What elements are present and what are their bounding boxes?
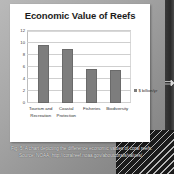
chart-title: Economic Value of Reefs [10, 10, 150, 21]
x-axis-category-label: Fisheries [80, 105, 104, 119]
x-axis-labels: Tourism and RecreationCoastal Protection… [27, 105, 131, 119]
chart-card: Economic Value of Reefs 024681012 Touris… [10, 4, 150, 142]
plot-area: 024681012 [27, 31, 131, 103]
caption-source-line: Source: NOAA, http://coralreef.noaa.gov/… [11, 152, 166, 159]
bar [38, 45, 49, 103]
y-axis-tick-label: 8 [23, 52, 25, 57]
chart-legend: $ billion/yr [134, 88, 157, 93]
bar-slot [85, 31, 97, 103]
y-axis-tick-label: 4 [23, 76, 25, 81]
figure-caption: Fig. 5: A chart depicting the difference… [11, 145, 166, 159]
bar [86, 69, 97, 103]
y-axis-tick-label: 2 [23, 88, 25, 93]
right-arrow-icon [165, 80, 174, 86]
bar-slot [37, 31, 49, 103]
y-axis-tick-label: 10 [20, 40, 25, 45]
slide-canvas: Economic Value of Reefs 024681012 Touris… [0, 0, 174, 174]
x-axis-category-label: Biodiversity [105, 105, 129, 119]
bar-slot [109, 31, 121, 103]
bar [62, 49, 73, 103]
x-axis-category-label: Tourism and Recreation [29, 105, 53, 119]
bar-series [27, 31, 131, 103]
y-axis-tick-label: 6 [23, 64, 25, 69]
bar [110, 70, 121, 103]
bar-slot [61, 31, 73, 103]
caption-line-1: Fig. 5: A chart depicting the difference… [11, 146, 152, 151]
y-axis-tick-label: 12 [20, 28, 25, 33]
y-axis-tick-label: 0 [23, 100, 25, 105]
x-axis-category-label: Coastal Protection [54, 105, 78, 119]
legend-label: $ billion/yr [139, 88, 158, 93]
legend-swatch-icon [134, 89, 137, 92]
